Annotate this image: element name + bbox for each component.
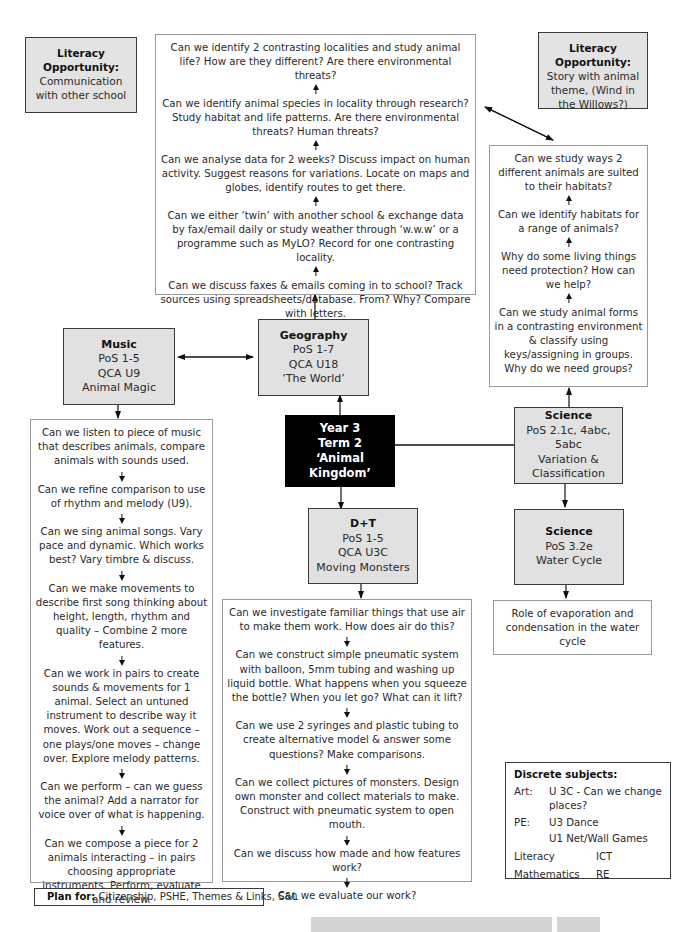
central-topic: ‘Animal Kingdom’ bbox=[286, 451, 394, 481]
literacy-left-text: Communication with other school bbox=[30, 74, 132, 102]
science-question: Can we identify habitats for a range of … bbox=[494, 208, 643, 236]
science1-pos: PoS 2.1c, 4abc, 5abc bbox=[515, 424, 622, 453]
arrow-up-icon bbox=[494, 194, 643, 208]
geography-question: Can we discuss faxes & emails coming in … bbox=[160, 279, 471, 321]
arrow-down-icon bbox=[227, 762, 467, 776]
dt-unit: Moving Monsters bbox=[309, 561, 417, 576]
footer-bar bbox=[311, 917, 552, 932]
arrow-up-icon bbox=[494, 236, 643, 250]
literacy-left-subtitle: Opportunity: bbox=[30, 60, 132, 74]
ict-subject: ICT bbox=[596, 850, 612, 864]
dt-question: Can we investigate familiar things that … bbox=[227, 606, 467, 634]
dt-pos: PoS 1-5 bbox=[309, 532, 417, 547]
science-classification-box: Science PoS 2.1c, 4abc, 5abc Variation &… bbox=[514, 407, 623, 484]
central-term: Term 2 bbox=[286, 436, 394, 451]
discrete-subjects-box: Discrete subjects: Art: U 3C - Can we ch… bbox=[505, 762, 671, 879]
arrow-down-icon bbox=[227, 705, 467, 719]
geography-questions-box: Can we identify 2 contrasting localities… bbox=[155, 34, 476, 295]
music-qca: QCA U9 bbox=[64, 367, 174, 382]
dt-subject-box: D+T PoS 1-5 QCA U3C Moving Monsters bbox=[308, 508, 418, 584]
music-question: Can we sing animal songs. Vary pace and … bbox=[35, 525, 208, 568]
re-subject: RE bbox=[596, 868, 610, 882]
mathematics-subject: Mathematics bbox=[514, 868, 596, 882]
literacy-left-title: Literacy bbox=[30, 46, 132, 60]
science-question: Can we study ways 2 different animals ar… bbox=[494, 152, 643, 194]
geography-subject-box: Geography PoS 1-7 QCA U18 ‘The World’ bbox=[258, 319, 369, 396]
central-year: Year 3 bbox=[286, 421, 394, 436]
dt-questions-box: Can we investigate familiar things that … bbox=[222, 599, 472, 882]
science2-pos: PoS 3.2e bbox=[515, 540, 623, 555]
music-question: Can we work in pairs to create sounds & … bbox=[35, 667, 208, 766]
arrow-down-icon bbox=[35, 653, 208, 667]
geography-title: Geography bbox=[259, 329, 368, 344]
science1-title: Science bbox=[515, 409, 622, 424]
pe-value-2: U1 Net/Wall Games bbox=[549, 832, 662, 846]
science1-unit1: Variation & bbox=[515, 453, 622, 468]
plan-for-label: Plan for: bbox=[47, 891, 95, 902]
science-water-cycle-box: Science PoS 3.2e Water Cycle bbox=[514, 509, 624, 585]
science2-title: Science bbox=[515, 525, 623, 540]
music-title: Music bbox=[64, 338, 174, 353]
music-question: Can we make movements to describe first … bbox=[35, 582, 208, 653]
arrow-up-icon bbox=[494, 292, 643, 306]
arrow-up-icon bbox=[160, 83, 471, 97]
music-unit: Animal Magic bbox=[64, 381, 174, 396]
literacy-opportunity-left: Literacy Opportunity: Communication with… bbox=[25, 37, 137, 113]
dt-question: Can we use 2 syringes and plastic tubing… bbox=[227, 719, 467, 762]
pe-label: PE: bbox=[514, 816, 549, 830]
geography-question: Can we identify 2 contrasting localities… bbox=[160, 41, 471, 83]
art-label: Art: bbox=[514, 785, 549, 813]
arrow-up-icon bbox=[160, 195, 471, 209]
water-cycle-question: Role of evaporation and condensation in … bbox=[498, 607, 647, 649]
literacy-right-subtitle: Opportunity: bbox=[543, 55, 643, 69]
science1-unit2: Classification bbox=[515, 467, 622, 482]
music-question: Can we refine comparison to use of rhyth… bbox=[35, 483, 208, 511]
arrow-up-icon bbox=[160, 139, 471, 153]
arrow-down-icon bbox=[35, 511, 208, 525]
pe-value-1: U3 Dance bbox=[549, 816, 662, 830]
literacy-right-title: Literacy bbox=[543, 41, 643, 55]
geography-question: Can we analyse data for 2 weeks? Discuss… bbox=[160, 153, 471, 195]
arrow-up-icon bbox=[160, 265, 471, 279]
central-topic-box: Year 3 Term 2 ‘Animal Kingdom’ bbox=[285, 415, 395, 487]
geography-question: Can we identify animal species in locali… bbox=[160, 97, 471, 139]
arrow-down-icon bbox=[227, 875, 467, 889]
arrow-down-icon bbox=[35, 568, 208, 582]
geography-unit: ‘The World’ bbox=[259, 372, 368, 387]
arrow-down-icon bbox=[35, 469, 208, 483]
science2-unit: Water Cycle bbox=[515, 554, 623, 569]
music-subject-box: Music PoS 1-5 QCA U9 Animal Magic bbox=[63, 328, 175, 405]
plan-for-box: Plan for: Citizenship, PSHE, Themes & Li… bbox=[34, 888, 264, 906]
music-question: Can we perform – can we guess the animal… bbox=[35, 780, 208, 823]
literacy-opportunity-right: Literacy Opportunity: Story with animal … bbox=[538, 32, 648, 109]
plan-for-text: Citizenship, PSHE, Themes & Links, S&L bbox=[95, 891, 298, 902]
dt-question: Can we discuss how made and how features… bbox=[227, 847, 467, 875]
music-questions-box: Can we listen to piece of music that des… bbox=[30, 419, 213, 883]
geography-qca: QCA U18 bbox=[259, 358, 368, 373]
arrow-down-icon bbox=[227, 833, 467, 847]
literacy-right-text: Story with animal theme, (Wind in the Wi… bbox=[543, 69, 643, 111]
arrow-down-icon bbox=[35, 766, 208, 780]
arrow-down-icon bbox=[35, 823, 208, 837]
water-cycle-questions-box: Role of evaporation and condensation in … bbox=[493, 600, 652, 655]
music-pos: PoS 1-5 bbox=[64, 352, 174, 367]
geography-question: Can we either ‘twin’ with another school… bbox=[160, 209, 471, 265]
literacy-subject: Literacy bbox=[514, 850, 596, 864]
geography-pos: PoS 1-7 bbox=[259, 343, 368, 358]
science-questions-box: Can we study ways 2 different animals ar… bbox=[489, 145, 648, 387]
dt-qca: QCA U3C bbox=[309, 546, 417, 561]
science-question: Can we study animal forms in a contrasti… bbox=[494, 306, 643, 376]
dt-question: Can we collect pictures of monsters. Des… bbox=[227, 776, 467, 833]
discrete-title: Discrete subjects: bbox=[514, 768, 662, 782]
arrow-down-icon bbox=[227, 634, 467, 648]
dt-title: D+T bbox=[309, 517, 417, 532]
music-question: Can we listen to piece of music that des… bbox=[35, 426, 208, 469]
art-value: U 3C - Can we change places? bbox=[549, 785, 662, 813]
footer-page-tab bbox=[557, 917, 600, 932]
science-question: Why do some living things need protectio… bbox=[494, 250, 643, 292]
dt-question: Can we construct simple pneumatic system… bbox=[227, 648, 467, 705]
